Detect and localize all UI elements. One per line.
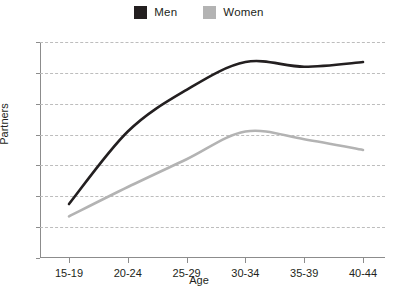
square-swatch-icon	[134, 6, 147, 19]
series-layer	[40, 42, 385, 258]
legend-entry-men: Men	[134, 6, 177, 19]
series-line-women	[69, 131, 363, 217]
legend-label-women: Women	[223, 7, 263, 19]
y-axis-title: Partners	[0, 84, 10, 164]
x-tick-mark	[304, 258, 305, 263]
plot-area: 01234567 15-1920-2425-2930-3435-3940-44	[40, 42, 385, 258]
legend-label-men: Men	[154, 7, 177, 19]
x-tick-mark	[187, 258, 188, 263]
y-tick-mark	[36, 258, 40, 259]
x-tick-mark	[69, 258, 70, 263]
chart-legend: Men Women	[0, 6, 398, 19]
x-tick-mark	[245, 258, 246, 263]
series-line-men	[69, 61, 363, 204]
x-tick-mark	[128, 258, 129, 263]
legend-entry-women: Women	[203, 6, 263, 19]
x-axis-title: Age	[0, 274, 398, 286]
square-swatch-icon	[203, 6, 216, 19]
line-chart: Men Women 01234567 15-1920-2425-2930-343…	[0, 0, 398, 298]
x-tick-mark	[363, 258, 364, 263]
